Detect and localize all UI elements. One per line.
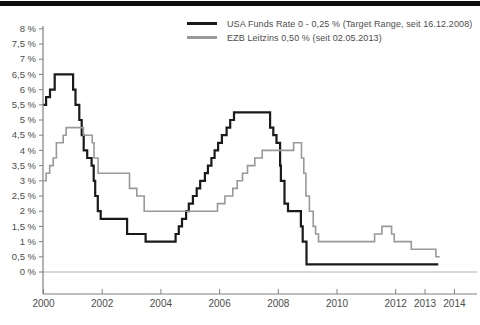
legend-label-ezb: EZB Leitzins 0,50 % (seit 02.05.2013)	[227, 33, 382, 43]
chart-legend: USA Funds Rate 0 - 0,25 % (Target Range,…	[187, 18, 472, 43]
y-axis-tick-label: 5 %	[20, 114, 37, 125]
ezb-series-line	[44, 128, 440, 257]
y-axis-tick-label: 2 %	[20, 205, 37, 216]
y-axis-tick-label: 6 %	[20, 84, 37, 95]
y-axis-tick-label: 1,5 %	[12, 221, 37, 232]
x-axis-tick-label: 2000	[32, 298, 55, 309]
y-axis-tick-label: 0,5 %	[12, 251, 37, 262]
y-axis-tick-label: 7 %	[20, 53, 37, 64]
y-axis-tick-label: 6,5 %	[12, 69, 37, 80]
x-axis-tick-label: 2006	[208, 298, 231, 309]
x-axis-tick-label: 2013	[414, 298, 437, 309]
y-axis-tick-label: 3,5 %	[12, 160, 37, 171]
y-axis-tick-label: 7,5 %	[12, 38, 37, 49]
y-axis-tick-label: 4 %	[20, 145, 37, 156]
x-axis-tick-label: 2008	[267, 298, 290, 309]
y-axis-tick-label: 4,5 %	[12, 129, 37, 140]
legend-label-usa: USA Funds Rate 0 - 0,25 % (Target Range,…	[227, 19, 472, 29]
chart-panel: 8 %7,5 %7 %6,5 %6 %5,5 %5 %4,5 %4 %3,5 %…	[0, 0, 480, 325]
x-axis-tick-label: 2010	[326, 298, 349, 309]
x-axis-tick-label: 2014	[443, 298, 466, 309]
y-axis-tick-label: 8 %	[20, 23, 37, 34]
usa-line-swatch	[187, 22, 217, 25]
legend-item-ezb: EZB Leitzins 0,50 % (seit 02.05.2013)	[187, 32, 472, 43]
x-axis-tick-label: 2004	[150, 298, 173, 309]
y-axis-tick-label: 2,5 %	[12, 190, 37, 201]
ezb-line-swatch	[187, 36, 217, 39]
y-axis-tick-label: 5,5 %	[12, 99, 37, 110]
rate-chart: 8 %7,5 %7 %6,5 %6 %5,5 %5 %4,5 %4 %3,5 %…	[0, 0, 480, 325]
usa-series-line	[44, 74, 439, 264]
y-axis-tick-label: 1 %	[20, 236, 37, 247]
y-axis-tick-label: 3 %	[20, 175, 37, 186]
x-axis-tick-label: 2002	[91, 298, 114, 309]
legend-item-usa: USA Funds Rate 0 - 0,25 % (Target Range,…	[187, 18, 472, 29]
x-axis-tick-label: 2012	[385, 298, 408, 309]
y-axis-tick-label: 0 %	[20, 266, 37, 277]
